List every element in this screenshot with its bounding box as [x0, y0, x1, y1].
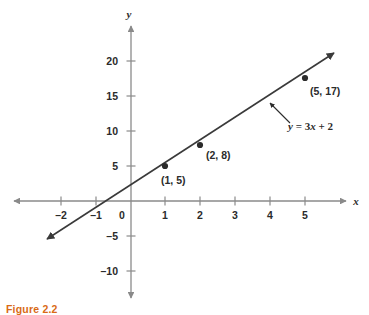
x-tick-label-3: 3: [232, 209, 238, 221]
y-tick-label-15: 15: [106, 90, 118, 102]
data-point-5-17: [302, 75, 308, 81]
y-tick-label-20: 20: [106, 55, 118, 67]
x-tick-label-1: 1: [162, 209, 168, 221]
x-tick-label-2: 2: [197, 209, 203, 221]
data-points: [162, 75, 308, 169]
data-point-2-8: [197, 142, 203, 148]
equation-label: y = 3x + 2: [286, 120, 333, 132]
figure-caption: Figure 2.2: [6, 303, 58, 315]
y-tick-label-5: 5: [112, 160, 118, 172]
axis-y: [127, 26, 136, 298]
data-point-label-5-17: (5, 17): [310, 85, 340, 97]
x-axis-label: x: [352, 195, 359, 207]
equation-leader-arrow: [270, 103, 290, 123]
data-point-1-5: [162, 163, 168, 169]
x-tick-label--2: –2: [55, 209, 67, 221]
equation-label-eq: = 3: [293, 120, 311, 132]
x-tick-labels: –2 –1 0 1 2 3 4 5: [55, 209, 308, 221]
y-tick-labels: 20 15 10 5 –5 –10: [100, 55, 118, 277]
x-tick-label-4: 4: [267, 209, 273, 221]
data-point-label-2-8: (2, 8): [206, 149, 231, 161]
data-point-label-1-5: (1, 5): [161, 174, 186, 186]
y-tick-label-10: 10: [106, 125, 118, 137]
y-tick-label--5: –5: [106, 230, 118, 242]
function-line: [47, 53, 334, 239]
y-axis-label: y: [125, 8, 132, 20]
x-tick-label-5: 5: [302, 209, 308, 221]
x-tick-label-0: 0: [119, 209, 125, 221]
axis-x: [14, 197, 346, 206]
y-tick-label--10: –10: [100, 265, 118, 277]
equation-label-suffix: + 2: [316, 120, 334, 132]
